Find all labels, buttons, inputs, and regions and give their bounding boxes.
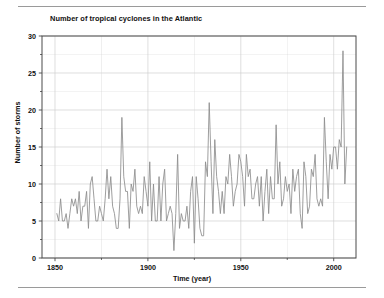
y-axis-label: Number of storms (13, 88, 22, 178)
y-tick-label: 15 (14, 143, 36, 152)
y-tick-label: 0 (14, 254, 36, 263)
x-tick-label: 1850 (35, 263, 75, 272)
x-tick-label: 1900 (128, 263, 168, 272)
y-tick-label: 5 (14, 217, 36, 226)
y-tick-label: 25 (14, 69, 36, 78)
x-axis-label: Time (year) (0, 274, 384, 283)
y-tick-label: 30 (14, 32, 36, 41)
y-tick-label: 20 (14, 106, 36, 115)
chart-title: Number of tropical cyclones in the Atlan… (50, 14, 202, 23)
cyclone-line-chart: Number of tropical cyclones in the Atlan… (0, 0, 384, 298)
plot-svg (0, 0, 384, 298)
y-tick-label: 10 (14, 180, 36, 189)
figure-container: Number of tropical cyclones in the Atlan… (0, 0, 384, 298)
x-tick-label: 2000 (314, 263, 354, 272)
x-tick-label: 1950 (221, 263, 261, 272)
